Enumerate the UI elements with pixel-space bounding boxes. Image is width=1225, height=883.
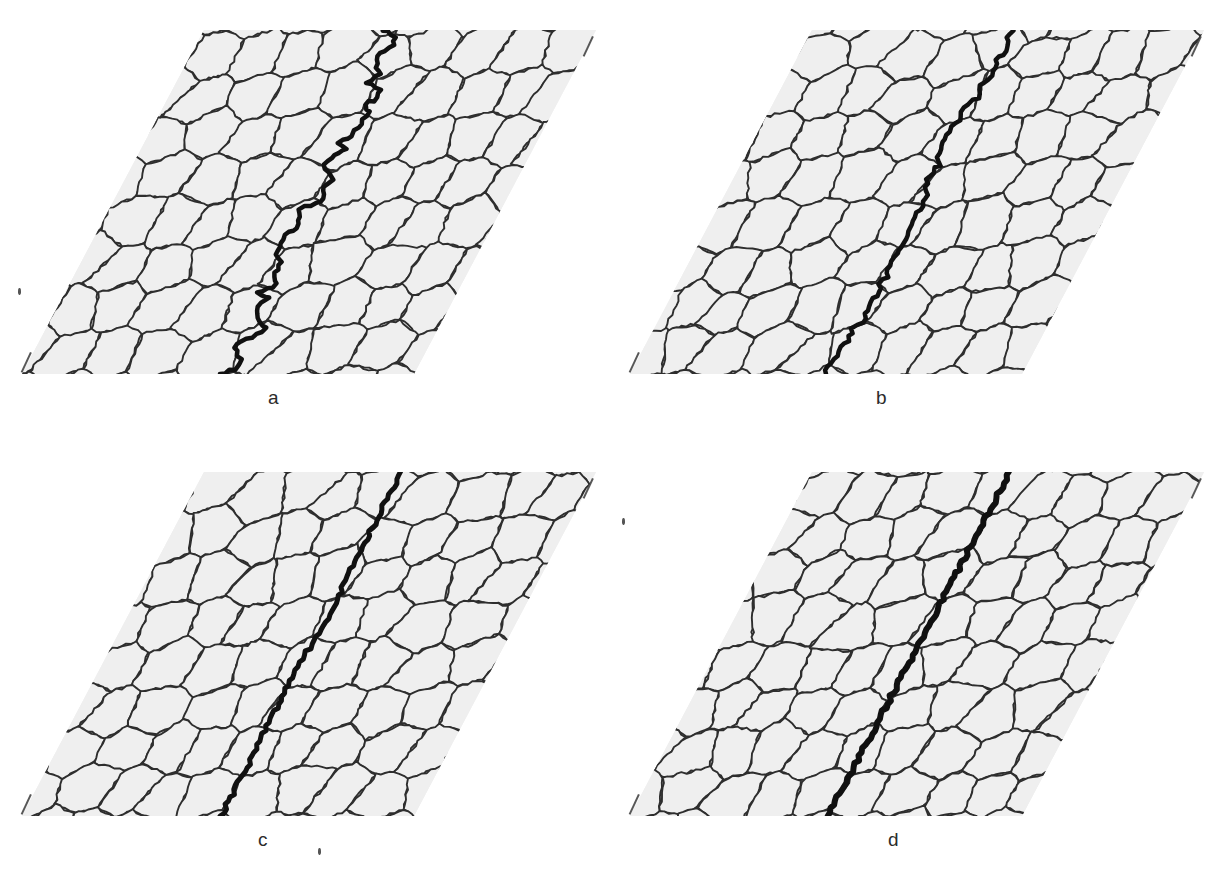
grain-cell bbox=[179, 375, 269, 389]
microstructure-svg-d bbox=[630, 472, 1218, 830]
grain-cell bbox=[121, 372, 246, 388]
grain-cell bbox=[225, 814, 324, 830]
grain-cell bbox=[77, 511, 194, 566]
grain-cell bbox=[706, 814, 799, 830]
panel-label-b: b bbox=[876, 388, 887, 407]
grain-layer-d bbox=[630, 472, 1218, 830]
grain-cell bbox=[640, 820, 759, 830]
scan-speck-below-c bbox=[318, 848, 321, 855]
microstructure-panel-c bbox=[22, 472, 610, 830]
microstructure-svg-c bbox=[22, 472, 610, 830]
grain-layer-a bbox=[22, 30, 610, 388]
microstructure-panel-a bbox=[22, 30, 610, 388]
grain-cell bbox=[1057, 731, 1163, 779]
grain-cell bbox=[1003, 323, 1060, 370]
panel-label-c: c bbox=[258, 830, 268, 849]
panel-label-a: a bbox=[268, 388, 279, 407]
microstructure-panel-d bbox=[630, 472, 1218, 830]
grain-cell bbox=[542, 30, 610, 73]
grain-layer-c bbox=[22, 472, 610, 830]
panel-label-d: d bbox=[888, 830, 899, 849]
scan-speck-left-d bbox=[622, 518, 625, 525]
grain-cell bbox=[1150, 107, 1219, 162]
microstructure-panel-b bbox=[630, 30, 1218, 388]
figure-canvas: abcd bbox=[0, 0, 1225, 883]
scan-speck-left-a bbox=[18, 288, 21, 295]
grain-cell bbox=[673, 597, 754, 650]
grain-cell bbox=[822, 374, 922, 388]
microstructure-svg-b bbox=[630, 30, 1218, 388]
grain-cell bbox=[1097, 198, 1200, 247]
grain-cell bbox=[630, 374, 666, 388]
microstructure-svg-a bbox=[22, 30, 610, 388]
grain-cell bbox=[22, 372, 138, 388]
